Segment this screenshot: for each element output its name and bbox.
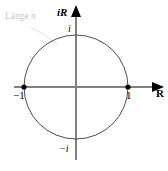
- tick-label-minus-one: −1: [13, 90, 25, 101]
- annotation-leader-line: [30, 27, 58, 45]
- figure-canvas: [0, 0, 168, 171]
- complex-plane-unit-circle-figure: iR R i −i 1 −1 Länge π: [0, 0, 168, 171]
- imaginary-axis-label: iR: [57, 7, 67, 18]
- imaginary-axis-arrowhead: [71, 5, 81, 17]
- tick-label-i: i: [68, 24, 71, 34]
- tick-label-minus-i: −i: [59, 144, 69, 154]
- annotation-laenge-pi: Länge π: [5, 12, 36, 22]
- real-axis-label: R: [156, 88, 164, 99]
- tick-label-one: 1: [126, 90, 132, 101]
